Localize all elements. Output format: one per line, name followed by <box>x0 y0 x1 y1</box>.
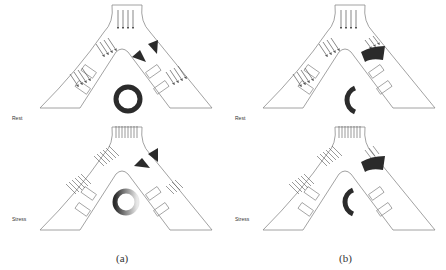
bifurcation-diagram <box>0 122 223 244</box>
bifurcation-diagram <box>223 0 446 122</box>
panel-a-stress: Stress <box>0 122 223 244</box>
ring-indicator <box>115 191 137 213</box>
panel-a-rest: Rest <box>0 0 223 122</box>
condition-label: Rest <box>12 115 22 121</box>
bifurcation-diagram <box>0 0 223 122</box>
vortex-marker <box>361 156 385 172</box>
ring-indicator <box>347 88 355 112</box>
ring-indicator <box>345 190 353 214</box>
panel-b-rest: Rest <box>223 0 446 122</box>
subfigure-caption-b: (b) <box>339 252 352 264</box>
subfigure-caption-a: (a) <box>116 252 128 264</box>
condition-label: Rest <box>235 115 245 121</box>
ring-indicator <box>116 87 140 111</box>
vortex-marker <box>361 46 385 62</box>
condition-label: Stress <box>235 216 249 222</box>
panel-b-stress: Stress <box>223 122 446 244</box>
vortex-marker <box>134 158 150 168</box>
bifurcation-diagram <box>223 122 446 244</box>
condition-label: Stress <box>12 216 26 222</box>
